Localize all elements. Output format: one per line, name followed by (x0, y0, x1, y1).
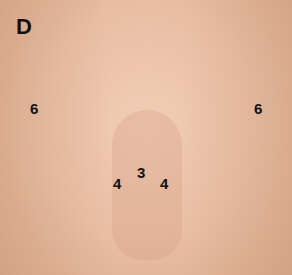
anatomical-figure-panel: D 6 6 3 4 4 (0, 0, 292, 275)
marker-3: 3 (137, 164, 145, 181)
marker-6-right: 6 (254, 100, 262, 117)
marker-4-left: 4 (113, 175, 121, 192)
panel-label: D (16, 14, 32, 40)
marker-4-right: 4 (160, 175, 168, 192)
marker-6-left: 6 (30, 100, 38, 117)
central-region-shading (112, 110, 182, 260)
right-shading (182, 0, 292, 275)
left-shading (0, 0, 110, 275)
